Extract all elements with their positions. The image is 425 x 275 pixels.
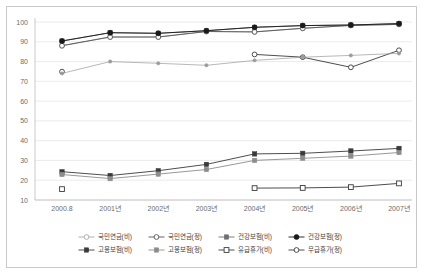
gridlines <box>35 18 412 200</box>
legend-label: 국민연금(정) <box>168 232 202 241</box>
series-고용보험(정) <box>60 150 401 181</box>
data-point <box>301 156 305 160</box>
data-point <box>60 187 65 192</box>
data-point <box>60 72 63 75</box>
legend-marker-국민연금(비)[interactable] <box>84 235 89 240</box>
data-point <box>348 22 353 27</box>
x-tick-label: 2001년 <box>99 204 121 212</box>
legend-label: 고용보험(비) <box>98 245 132 254</box>
data-point <box>154 248 158 252</box>
data-point <box>60 38 65 43</box>
y-axis-ticks: 102030405060708090100 <box>16 19 28 204</box>
y-tick-label: 20 <box>20 177 28 184</box>
data-point <box>252 158 256 162</box>
legend-marker-고용보험(비)[interactable] <box>84 248 88 252</box>
legend-marker-건강보험(비)[interactable] <box>224 235 228 239</box>
legend-label: 유급휴가(비) <box>238 245 272 254</box>
data-point <box>397 146 401 150</box>
legend-marker-국민연금(정)[interactable] <box>154 235 159 240</box>
data-point <box>300 186 305 191</box>
y-tick-label: 90 <box>20 38 28 45</box>
data-point <box>60 172 64 176</box>
x-tick-label: 2005년 <box>292 204 314 212</box>
line-chart: 102030405060708090100 2000.82001년2002년20… <box>0 0 425 275</box>
data-point <box>397 21 402 26</box>
x-tick-label: 2007년 <box>388 204 410 212</box>
legend-marker-건강보험(정)[interactable] <box>294 235 299 240</box>
data-point <box>156 31 161 36</box>
data-point <box>108 30 113 35</box>
chart-legend: 국민연금(비)국민연금(정)건강보험(비)건강보험(정)고용보험(비)고용보험(… <box>79 232 342 254</box>
y-tick-label: 100 <box>16 19 28 26</box>
y-tick-label: 50 <box>20 117 28 124</box>
data-point <box>204 162 208 166</box>
legend-label: 건강보험(비) <box>238 232 272 241</box>
data-point <box>252 152 256 156</box>
x-axis-ticks: 2000.82001년2002년2003년2004년2005년2006년2007… <box>51 204 410 212</box>
series-무급휴가(보조) <box>60 52 400 75</box>
legend-label: 고용보험(정) <box>168 245 202 254</box>
series-path <box>255 183 399 188</box>
data-point <box>301 56 304 59</box>
data-point <box>252 52 257 57</box>
x-tick-label: 2002년 <box>147 204 169 212</box>
data-point <box>224 248 229 253</box>
data-point <box>397 150 401 154</box>
data-point <box>252 186 257 191</box>
y-tick-label: 60 <box>20 98 28 105</box>
data-point <box>348 65 353 70</box>
data-point <box>204 167 208 171</box>
data-point <box>294 248 299 253</box>
series-고용보험(비) <box>60 146 401 177</box>
legend-marker-고용보험(정)[interactable] <box>154 248 158 252</box>
y-tick-label: 10 <box>20 197 28 204</box>
chart-screenshot: 102030405060708090100 2000.82001년2002년20… <box>0 0 425 275</box>
y-tick-label: 80 <box>20 58 28 65</box>
data-point <box>84 248 88 252</box>
data-point <box>397 181 402 186</box>
data-point <box>349 149 353 153</box>
data-point <box>294 235 299 240</box>
legend-marker-무급휴가(정)[interactable] <box>294 248 299 253</box>
x-tick-label: 2006년 <box>340 204 362 212</box>
y-tick-label: 30 <box>20 157 28 164</box>
data-point <box>252 29 257 34</box>
y-tick-label: 40 <box>20 137 28 144</box>
data-point <box>157 62 160 65</box>
legend-label: 건강보험(정) <box>308 232 342 241</box>
data-point <box>156 172 160 176</box>
data-point <box>108 60 111 63</box>
series-건강보험(정) <box>60 21 402 43</box>
data-point <box>154 235 159 240</box>
x-tick-label: 2000.8 <box>51 205 73 212</box>
legend-label: 국민연금(비) <box>98 232 132 241</box>
series-path <box>62 53 399 73</box>
data-point <box>224 235 228 239</box>
data-point <box>349 154 353 158</box>
data-point <box>300 23 305 28</box>
data-point <box>205 64 208 67</box>
series-lines <box>60 21 402 191</box>
data-point <box>84 235 89 240</box>
x-tick-label: 2004년 <box>244 204 266 212</box>
data-point <box>60 43 65 48</box>
data-point <box>253 59 256 62</box>
data-point <box>397 52 400 55</box>
legend-label: 무급휴가(정) <box>308 245 342 254</box>
x-tick-label: 2003년 <box>196 204 218 212</box>
data-point <box>252 25 257 30</box>
y-tick-label: 70 <box>20 78 28 85</box>
data-point <box>348 185 353 190</box>
data-point <box>301 151 305 155</box>
data-point <box>108 176 112 180</box>
chart-canvas: 102030405060708090100 2000.82001년2002년20… <box>0 0 425 275</box>
legend-marker-유급휴가(비)[interactable] <box>224 248 229 253</box>
data-point <box>349 54 352 57</box>
data-point <box>204 28 209 33</box>
series-유급휴가(비) <box>60 181 402 192</box>
